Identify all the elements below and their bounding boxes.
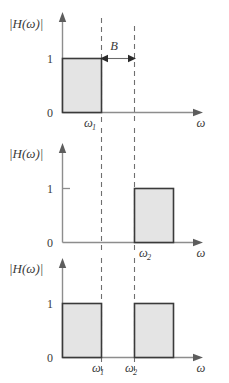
svg-text:2: 2	[133, 368, 137, 377]
x-axis-panel-2	[63, 239, 204, 246]
x-tick-label-omega2-panel-3: ω 2	[125, 361, 137, 377]
panel-combined: |H(ω)| 1 0 ω 1 ω 2 ω	[9, 258, 206, 377]
x-axis-label-panel-2: ω	[197, 246, 206, 260]
svg-text:1: 1	[92, 123, 96, 132]
y-axis-panel-2	[59, 143, 66, 243]
x-tick-label-omega1-panel-1: ω 1	[84, 116, 96, 132]
y-tick-label-one-panel-3: 1	[47, 297, 53, 311]
y-axis-label-panel-1: |H(ω)|	[9, 16, 43, 31]
passband-rect-combined-high	[135, 304, 174, 358]
y-tick-label-zero-panel-2: 0	[47, 236, 53, 250]
y-axis-label-panel-3: |H(ω)|	[9, 261, 43, 276]
x-axis-label-panel-3: ω	[197, 361, 206, 375]
x-tick-label-omega1-panel-3: ω 1	[92, 361, 104, 377]
passband-rect-lowpass	[63, 59, 102, 113]
y-tick-label-one-panel-2: 1	[47, 182, 53, 196]
y-tick-label-zero-panel-1: 0	[47, 106, 53, 120]
bandwidth-label-B: B	[110, 39, 118, 53]
y-axis-label-panel-2: |H(ω)|	[9, 146, 43, 161]
svg-text:2: 2	[147, 253, 151, 262]
passband-rect-combined-low	[63, 304, 102, 358]
passband-rect-highpass	[135, 189, 174, 243]
panel-lowpass: |H(ω)| 1 0 B ω 1 ω	[9, 12, 206, 132]
y-tick-label-one-panel-1: 1	[47, 52, 53, 66]
x-axis-label-panel-1: ω	[197, 116, 206, 130]
svg-text:1: 1	[100, 368, 104, 377]
x-tick-label-omega2-panel-2: ω 2	[139, 246, 151, 262]
panel-highpass: |H(ω)| 1 0 ω 2 ω	[9, 143, 206, 262]
bandwidth-arrow-B	[100, 55, 136, 62]
signal-filter-figure: |H(ω)| 1 0 B ω 1 ω	[0, 0, 229, 383]
y-tick-label-zero-panel-3: 0	[47, 351, 53, 365]
